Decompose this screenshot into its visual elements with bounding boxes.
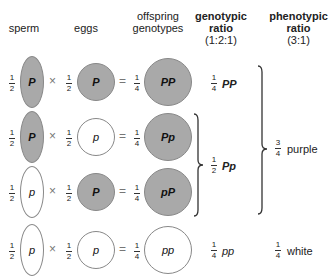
header-genotypic-line3: (1:2:1) xyxy=(190,34,252,46)
sperm-allele: P xyxy=(28,131,35,143)
ratio-label: pp xyxy=(222,245,234,257)
times-sign: × xyxy=(49,184,56,198)
egg-fraction: 1 2 xyxy=(65,184,73,203)
egg-fraction: 1 2 xyxy=(65,74,73,93)
header-genotypic-line2: ratio xyxy=(190,22,252,34)
sperm-cell: p xyxy=(20,224,44,276)
sperm-fraction: 1 2 xyxy=(8,74,16,93)
cross-row-1: 1 2 P × 1 2 P = 1 4 PP xyxy=(0,54,331,110)
offspring-genotype: pP xyxy=(161,186,175,198)
bracket-heterozygous xyxy=(192,112,206,218)
sperm-cell: P xyxy=(20,111,44,163)
ratio-fraction: 1 4 xyxy=(210,74,218,93)
equals-sign: = xyxy=(119,184,126,198)
header-eggs: eggs xyxy=(66,22,106,34)
header-offspring: offspring genotypes xyxy=(128,10,188,34)
sperm-cell: P xyxy=(20,56,44,108)
header-sperm: sperm xyxy=(4,22,44,34)
ratio-fraction: 1 4 xyxy=(274,241,282,260)
genotypic-ratio-PP: 1 4 PP xyxy=(210,74,237,93)
offspring-genotype: pp xyxy=(162,244,174,256)
header-offspring-line2: genotypes xyxy=(128,22,188,34)
sperm-fraction: 1 2 xyxy=(8,184,16,203)
egg-fraction: 1 2 xyxy=(65,242,73,261)
offspring-genotype: PP xyxy=(161,76,176,88)
egg-cell: P xyxy=(77,63,115,101)
equals-sign: = xyxy=(119,74,126,88)
sperm-allele: P xyxy=(28,76,35,88)
equals-sign: = xyxy=(119,129,126,143)
genotypic-ratio-pp: 1 4 pp xyxy=(210,241,234,260)
offspring-cell: pP xyxy=(144,168,192,216)
header-sperm-label: sperm xyxy=(9,22,40,34)
egg-cell: p xyxy=(77,231,115,269)
egg-allele: P xyxy=(92,186,99,198)
ratio-fraction: 1 4 xyxy=(210,241,218,260)
header-genotypic-line1: genotypic xyxy=(190,10,252,22)
offspring-cell: Pp xyxy=(144,113,192,161)
ratio-label: PP xyxy=(222,78,237,90)
egg-fraction: 1 2 xyxy=(65,129,73,148)
genotypic-ratio-Pp: 1 2 Pp xyxy=(210,156,236,175)
offspring-fraction: 1 4 xyxy=(133,184,141,203)
sperm-fraction: 1 2 xyxy=(8,242,16,261)
header-offspring-line1: offspring xyxy=(128,10,188,22)
ratio-label: Pp xyxy=(222,160,236,172)
egg-cell: p xyxy=(77,118,115,156)
offspring-fraction: 1 4 xyxy=(133,242,141,261)
phenotypic-ratio-purple: 3 4 purple xyxy=(274,139,318,158)
offspring-genotype: Pp xyxy=(161,131,175,143)
phenotypic-ratio-white: 1 4 white xyxy=(274,241,313,260)
offspring-cell: PP xyxy=(144,58,192,106)
sperm-cell: p xyxy=(20,166,44,218)
offspring-cell: pp xyxy=(144,226,192,274)
bracket-purple xyxy=(256,64,270,216)
phenotype-label: purple xyxy=(287,143,318,155)
header-eggs-label: eggs xyxy=(74,22,98,34)
sperm-fraction: 1 2 xyxy=(8,129,16,148)
times-sign: × xyxy=(49,129,56,143)
ratio-fraction: 3 4 xyxy=(274,139,282,158)
times-sign: × xyxy=(49,74,56,88)
phenotype-label: white xyxy=(287,245,313,257)
egg-allele: p xyxy=(93,244,99,256)
egg-allele: p xyxy=(93,131,99,143)
offspring-fraction: 1 4 xyxy=(133,129,141,148)
times-sign: × xyxy=(49,242,56,256)
sperm-allele: p xyxy=(29,186,35,198)
ratio-fraction: 1 2 xyxy=(210,156,218,175)
header-phenotypic-line1: phenotypic xyxy=(266,10,331,22)
sperm-allele: p xyxy=(29,244,35,256)
equals-sign: = xyxy=(119,242,126,256)
cross-row-3: 1 2 p × 1 2 P = 1 4 pP xyxy=(0,164,331,220)
egg-allele: P xyxy=(92,76,99,88)
header-phenotypic-line2: ratio xyxy=(266,22,331,34)
offspring-fraction: 1 4 xyxy=(133,74,141,93)
header-phenotypic-line3: (3:1) xyxy=(266,34,331,46)
egg-cell: P xyxy=(77,173,115,211)
header-phenotypic: phenotypic ratio (3:1) xyxy=(266,10,331,46)
header-genotypic: genotypic ratio (1:2:1) xyxy=(190,10,252,46)
